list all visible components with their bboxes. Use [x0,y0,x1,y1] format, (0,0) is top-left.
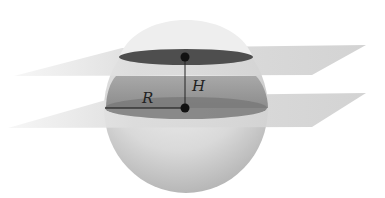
upper-center-point [181,53,190,62]
height-label: H [191,77,206,95]
radius-label: R [141,89,153,107]
sphere-diagram: R H [0,0,385,198]
lower-center-point [181,104,190,113]
